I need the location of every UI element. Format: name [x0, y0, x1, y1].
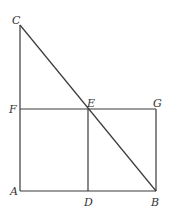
label-D: D — [83, 196, 93, 209]
geometry-diagram: C F E G A D B — [0, 0, 169, 212]
label-F: F — [8, 103, 17, 116]
label-E: E — [86, 97, 95, 110]
label-G: G — [153, 97, 162, 110]
label-C: C — [12, 14, 21, 27]
label-A: A — [9, 185, 18, 198]
label-B: B — [150, 196, 159, 209]
